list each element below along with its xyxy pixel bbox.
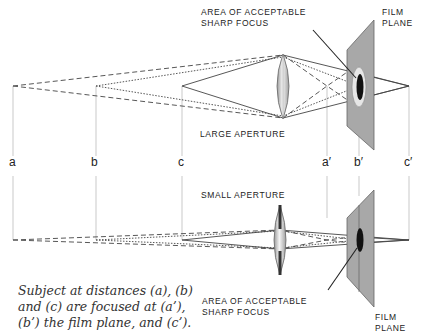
film-plane-label-top-line1: FILM [382, 7, 413, 18]
focus-label-top-line1: AREA OF ACCEPTABLE [201, 7, 306, 18]
film-plane-label-top-line2: PLANE [382, 18, 413, 29]
focus-area-bottom [357, 228, 364, 252]
caption-line2: and (c) are focused at (a’), [18, 299, 193, 315]
caption: Subject at distances (a), (b) and (c) ar… [18, 283, 193, 331]
film-plane-label-bottom: FILM PLANE [375, 312, 406, 334]
focus-label-bottom-line2: SHARP FOCUS [202, 307, 307, 318]
focus-label-bottom: AREA OF ACCEPTABLE SHARP FOCUS [202, 296, 307, 318]
film-plane-label-bottom-line1: FILM [375, 312, 406, 323]
label-b: b [91, 155, 98, 169]
large-aperture-lens [277, 54, 289, 119]
small-aperture-lens [274, 205, 286, 275]
label-a-prime: a′ [322, 155, 331, 169]
caption-line3: (b’) the film plane, and (c’). [18, 315, 193, 331]
label-c: c [178, 155, 184, 169]
large-aperture-label: LARGE APERTURE [200, 129, 285, 140]
focus-label-bottom-line1: AREA OF ACCEPTABLE [202, 296, 307, 307]
film-plane-label-bottom-line2: PLANE [375, 323, 406, 334]
label-c-prime: c′ [404, 155, 412, 169]
small-aperture-label: SMALL APERTURE [201, 190, 285, 201]
label-b-prime: b′ [354, 155, 363, 169]
focus-label-top: AREA OF ACCEPTABLE SHARP FOCUS [201, 7, 306, 29]
label-a: a [9, 155, 16, 169]
focus-area-top [357, 74, 364, 100]
caption-line1: Subject at distances (a), (b) [18, 283, 193, 299]
focus-label-top-line2: SHARP FOCUS [201, 18, 306, 29]
film-plane-label-top: FILM PLANE [382, 7, 413, 29]
